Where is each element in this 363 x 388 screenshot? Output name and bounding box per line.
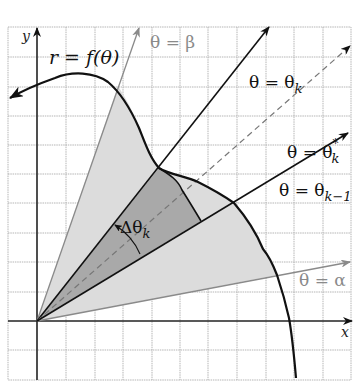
curve-label: r = f(θ) xyxy=(49,46,119,68)
label-theta-k-sub: k xyxy=(295,81,303,96)
label-theta-k-minus-1-sub: k−1 xyxy=(325,189,352,204)
label-theta-k: θ = θk xyxy=(249,72,303,96)
polar-area-diagram: y x r = f(θ) θ = β θ = α θ = θk θ = θ*k … xyxy=(0,0,363,388)
y-axis-label: y xyxy=(21,28,31,44)
label-delta-theta-main: Δθ xyxy=(120,217,143,237)
label-theta-alpha: θ = α xyxy=(299,270,346,290)
label-theta-k-star-sub: k xyxy=(332,151,340,166)
label-theta-k-minus-1: θ = θk−1 xyxy=(279,180,352,204)
diagram-canvas: y x r = f(θ) θ = β θ = α θ = θk θ = θ*k … xyxy=(0,0,363,388)
label-delta-theta-sub: k xyxy=(143,226,151,241)
label-theta-beta: θ = β xyxy=(150,32,195,52)
label-theta-k-main: θ = θ xyxy=(249,72,295,92)
label-theta-k-star: θ = θ*k xyxy=(287,137,340,166)
x-axis-label: x xyxy=(341,324,349,340)
label-theta-k-star-main: θ = θ xyxy=(287,142,333,162)
label-theta-k-star-sup: * xyxy=(333,137,339,151)
label-theta-k-minus-1-main: θ = θ xyxy=(279,180,325,200)
